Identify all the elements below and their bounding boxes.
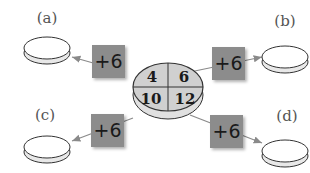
center-cell-top-left: 4 xyxy=(147,68,157,86)
output-label-b: (b) xyxy=(274,12,295,30)
center-cell-bottom-right: 12 xyxy=(175,90,196,108)
op-box-d: +6 xyxy=(210,115,243,148)
op-label-c: +6 xyxy=(93,119,121,141)
center-cell-bottom-left: 10 xyxy=(141,90,162,108)
op-box-b: +6 xyxy=(212,47,245,80)
op-label-b: +6 xyxy=(214,52,242,74)
output-disc-c: (c) xyxy=(24,106,70,163)
center-cell-top-right: 6 xyxy=(179,68,189,86)
diagram-canvas: (a) (b) (c) (d) +6 +6 +6 +6 4 6 10 xyxy=(0,0,310,173)
op-box-c: +6 xyxy=(91,114,124,147)
op-label-a: +6 xyxy=(94,50,122,72)
output-label-a: (a) xyxy=(37,9,58,27)
op-box-a: +6 xyxy=(92,45,125,78)
output-label-d: (d) xyxy=(276,107,297,125)
op-label-d: +6 xyxy=(212,120,240,142)
output-disc-d: (d) xyxy=(262,107,308,167)
output-label-c: (c) xyxy=(35,106,55,124)
center-disc: 4 6 10 12 xyxy=(133,63,203,119)
output-disc-b: (b) xyxy=(262,12,308,73)
output-disc-a: (a) xyxy=(24,9,70,64)
